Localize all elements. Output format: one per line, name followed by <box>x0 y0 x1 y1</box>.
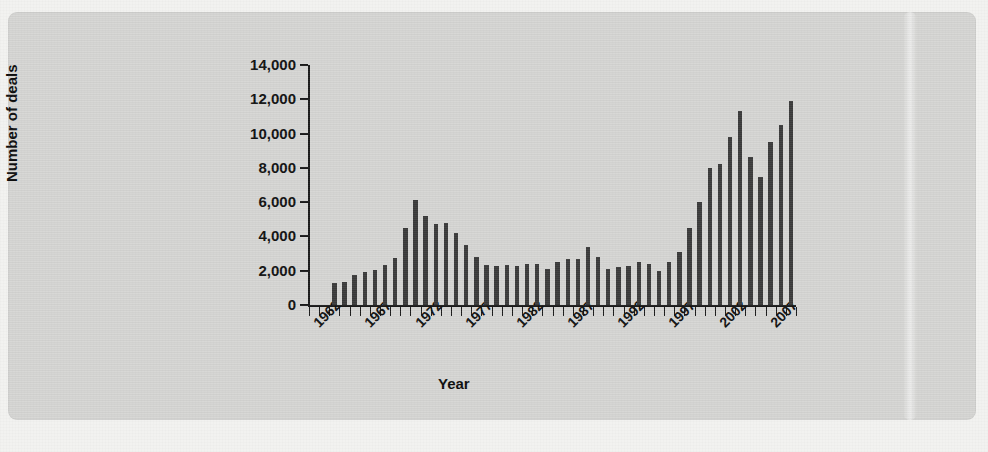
bar <box>718 164 722 305</box>
bar <box>413 200 417 305</box>
bar <box>687 228 691 305</box>
bar <box>464 245 468 305</box>
bar <box>758 177 762 305</box>
bar <box>342 282 346 305</box>
bar <box>393 258 397 305</box>
bar <box>515 266 519 305</box>
bar <box>667 262 671 305</box>
bar <box>454 233 458 305</box>
x-tick-mark <box>410 307 411 316</box>
x-tick-mark <box>603 307 604 316</box>
x-axis-title: Year <box>438 375 470 392</box>
bar <box>586 247 590 305</box>
bar <box>535 264 539 305</box>
x-tick-mark <box>715 307 716 316</box>
x-tick-mark <box>451 307 452 316</box>
bar <box>423 216 427 305</box>
bar <box>363 272 367 305</box>
x-tick-mark <box>654 307 655 316</box>
x-tick-mark <box>553 307 554 316</box>
bar <box>789 101 793 305</box>
bar <box>373 270 377 305</box>
bar <box>484 265 488 305</box>
bar <box>677 252 681 305</box>
x-tick-mark <box>563 307 564 316</box>
x-tick-mark <box>461 307 462 316</box>
x-tick-mark <box>400 307 401 316</box>
chart-figure-panel: Number of deals Year 02,0004,0006,0008,0… <box>8 12 976 420</box>
bar <box>545 269 549 305</box>
bar <box>637 262 641 305</box>
bar <box>647 264 651 305</box>
y-tick-label-wrap: 0 <box>204 305 296 306</box>
bar <box>332 283 336 305</box>
scanned-page: Number of deals Year 02,0004,0006,0008,0… <box>0 0 988 452</box>
bar <box>352 275 356 305</box>
x-tick-mark <box>664 307 665 316</box>
bar <box>779 125 783 305</box>
x-tick-mark <box>512 307 513 316</box>
bar-series <box>8 12 976 305</box>
bar <box>403 228 407 305</box>
x-tick-mark <box>350 307 351 316</box>
bar <box>697 202 701 305</box>
bar <box>566 259 570 305</box>
bar <box>616 267 620 305</box>
bar <box>383 265 387 305</box>
bar <box>444 223 448 305</box>
bar <box>505 265 509 305</box>
x-tick-mark <box>502 307 503 316</box>
x-tick-mark <box>309 307 310 316</box>
bar <box>576 259 580 305</box>
bar <box>738 111 742 305</box>
bar <box>474 257 478 305</box>
bar <box>768 142 772 305</box>
bar-chart-plot: Number of deals Year 02,0004,0006,0008,0… <box>8 12 976 420</box>
bar <box>728 137 732 305</box>
bar <box>494 266 498 305</box>
bar <box>708 168 712 305</box>
bar <box>606 269 610 305</box>
bar <box>596 257 600 305</box>
bar <box>626 266 630 305</box>
x-tick-mark <box>360 307 361 316</box>
bar <box>748 157 752 305</box>
x-tick-mark <box>766 307 767 316</box>
x-tick-mark <box>755 307 756 316</box>
x-tick-mark <box>613 307 614 316</box>
bar <box>434 224 438 305</box>
bar <box>525 264 529 305</box>
bar <box>657 271 661 305</box>
bar <box>555 262 559 305</box>
x-tick-mark <box>705 307 706 316</box>
